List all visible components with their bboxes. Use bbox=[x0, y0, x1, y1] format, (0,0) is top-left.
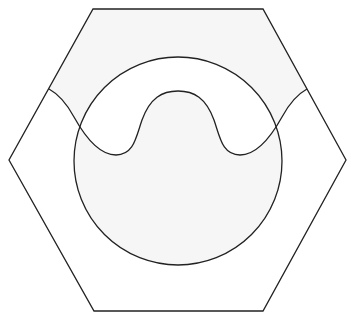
diagram-canvas bbox=[0, 0, 364, 323]
geometry-figure bbox=[0, 0, 364, 323]
